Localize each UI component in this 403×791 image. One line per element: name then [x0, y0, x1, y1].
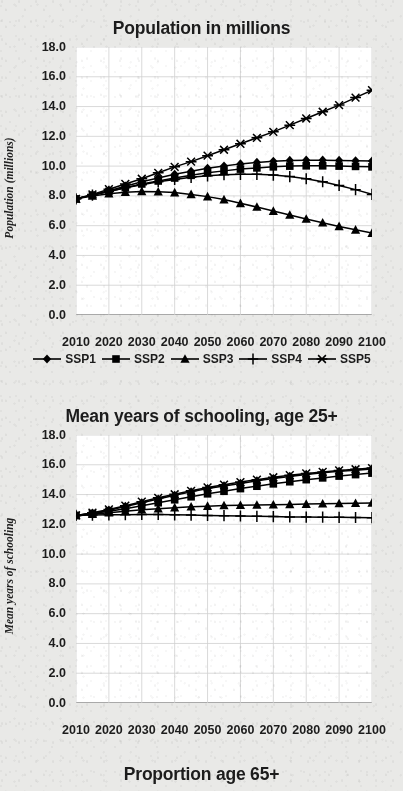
- plus-marker: [285, 511, 295, 522]
- y-axis-ticks-population: 0.02.04.06.08.010.012.014.016.018.0: [18, 47, 70, 329]
- square-marker: [368, 163, 372, 171]
- y-tick-label: 10.0: [42, 159, 66, 173]
- plus-marker: [301, 511, 311, 522]
- legend-label: SSP1: [65, 352, 96, 366]
- chart-canvas-schooling: [76, 435, 372, 703]
- square-marker: [204, 490, 212, 498]
- asterisk-marker: [251, 133, 262, 141]
- asterisk-marker: [317, 107, 328, 115]
- y-axis-label-schooling: Mean years of schooling: [0, 435, 20, 717]
- x-tick-label: 2070: [259, 723, 287, 737]
- y-tick-label: 18.0: [42, 428, 66, 442]
- y-tick-label: 6.0: [49, 606, 66, 620]
- square-marker: [237, 484, 245, 492]
- square-marker: [270, 480, 278, 488]
- legend-item-ssp5[interactable]: SSP5: [307, 351, 371, 367]
- plus-marker: [334, 511, 344, 522]
- diamond-marker: [32, 351, 62, 367]
- square-marker: [220, 487, 228, 495]
- square-marker: [352, 162, 360, 170]
- x-tick-label: 2010: [62, 723, 90, 737]
- plus-marker: [202, 509, 212, 520]
- y-tick-label: 18.0: [42, 40, 66, 54]
- x-tick-label: 2090: [325, 723, 353, 737]
- triangle-marker: [170, 351, 200, 367]
- y-tick-label: 14.0: [42, 99, 66, 113]
- y-tick-label: 4.0: [49, 248, 66, 262]
- diamond-marker: [43, 354, 51, 363]
- square-marker: [319, 162, 327, 170]
- plot-area-population: [76, 47, 372, 315]
- plus-marker: [219, 510, 229, 521]
- plus-marker: [252, 510, 262, 521]
- y-tick-label: 4.0: [49, 636, 66, 650]
- legend-item-ssp3[interactable]: SSP3: [170, 351, 234, 367]
- y-tick-label: 16.0: [42, 69, 66, 83]
- plus-marker: [317, 511, 327, 522]
- y-tick-label: 8.0: [49, 188, 66, 202]
- legend-label: SSP2: [134, 352, 165, 366]
- asterisk-marker: [219, 145, 230, 153]
- panel-schooling: Mean years of schooling, age 25+ Mean ye…: [0, 392, 403, 747]
- y-axis-ticks-schooling: 0.02.04.06.08.010.012.014.016.018.0: [18, 435, 70, 717]
- page-title-population: Population in millions: [0, 0, 403, 38]
- plus-marker: [334, 179, 344, 190]
- legend-item-ssp1[interactable]: SSP1: [32, 351, 96, 367]
- y-tick-label: 16.0: [42, 457, 66, 471]
- legend-label: SSP3: [203, 352, 234, 366]
- asterisk-marker: [284, 121, 295, 129]
- chart-legend: SSP1SSP2SSP3SSP4SSP5: [0, 346, 403, 372]
- y-tick-label: 0.0: [49, 308, 66, 322]
- plus-marker: [301, 173, 311, 184]
- x-tick-label: 2020: [95, 723, 123, 737]
- x-tick-label: 2050: [194, 723, 222, 737]
- legend-item-ssp4[interactable]: SSP4: [238, 351, 302, 367]
- plus-marker: [235, 510, 245, 521]
- x-axis-ticks-schooling: 2010202020302040205020602070208020902100: [60, 723, 391, 741]
- square-marker: [335, 162, 343, 170]
- x-tick-label: 2080: [292, 723, 320, 737]
- y-tick-label: 6.0: [49, 218, 66, 232]
- x-tick-label: 2060: [227, 723, 255, 737]
- plus-marker: [248, 353, 258, 364]
- x-tick-label: 2100: [358, 723, 386, 737]
- plus-marker: [238, 351, 268, 367]
- y-tick-label: 2.0: [49, 278, 66, 292]
- legend-label: SSP5: [340, 352, 371, 366]
- legend-item-ssp2[interactable]: SSP2: [101, 351, 165, 367]
- plus-marker: [350, 511, 360, 522]
- plus-marker: [153, 508, 163, 519]
- plot-wrap-population: Population (millions) 0.02.04.06.08.010.…: [0, 47, 403, 329]
- square-marker: [253, 482, 261, 490]
- square-marker: [286, 162, 294, 170]
- square-marker: [302, 162, 310, 170]
- square-marker: [112, 355, 120, 363]
- y-tick-label: 12.0: [42, 129, 66, 143]
- asterisk-marker: [350, 93, 361, 101]
- plot-wrap-schooling: Mean years of schooling 0.02.04.06.08.01…: [0, 435, 403, 717]
- asterisk-marker: [186, 157, 197, 165]
- chart-canvas-population: [76, 47, 372, 315]
- y-tick-label: 8.0: [49, 576, 66, 590]
- x-tick-label: 2030: [128, 723, 156, 737]
- y-tick-label: 12.0: [42, 517, 66, 531]
- panel-population: Population in millions Population (milli…: [0, 0, 403, 390]
- asterisk-marker: [307, 351, 337, 367]
- plus-marker: [268, 169, 278, 180]
- plot-area-schooling: [76, 435, 372, 703]
- y-axis-label-population: Population (millions): [0, 47, 20, 329]
- plus-marker: [367, 188, 372, 199]
- legend-label: SSP4: [271, 352, 302, 366]
- x-tick-label: 2040: [161, 723, 189, 737]
- asterisk-marker: [317, 355, 328, 363]
- series-ssp3: [76, 186, 372, 236]
- y-tick-label: 0.0: [49, 696, 66, 710]
- y-tick-label: 10.0: [42, 547, 66, 561]
- square-marker: [286, 477, 294, 485]
- series-ssp5: [76, 86, 372, 202]
- plus-marker: [317, 176, 327, 187]
- y-tick-label: 14.0: [42, 487, 66, 501]
- page-title-schooling: Mean years of schooling, age 25+: [0, 392, 403, 426]
- plus-marker: [186, 509, 196, 520]
- plus-marker: [350, 184, 360, 195]
